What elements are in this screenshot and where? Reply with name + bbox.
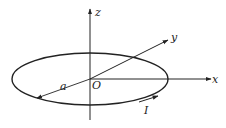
z-axis-label: z [94, 6, 101, 19]
y-axis-label: y [170, 31, 178, 44]
y-axis [90, 40, 168, 79]
current-loop-diagram: z y x O a I [0, 0, 226, 128]
x-axis-label: x [212, 73, 219, 86]
current-label: I [143, 104, 149, 117]
origin-label: O [92, 79, 101, 92]
radius-label: a [60, 80, 67, 93]
